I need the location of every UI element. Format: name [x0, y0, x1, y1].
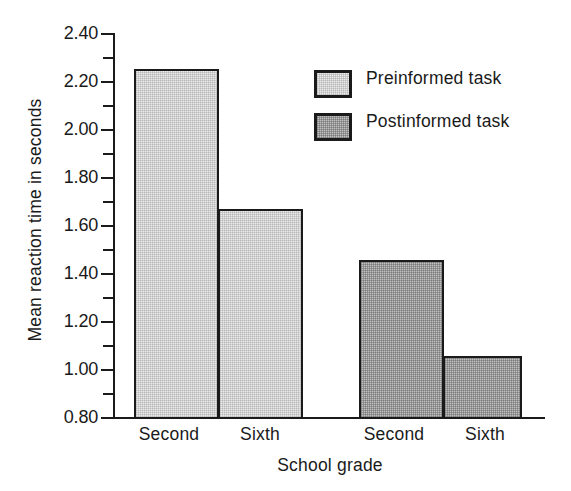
y-tick-label-1-20: 1.20 — [22, 311, 98, 332]
y-tick-label-group: 2.40 2.20 2.00 1.80 1.60 1.40 1.20 1.00 … — [16, 0, 98, 491]
bar-chart-figure: Mean reaction time in seconds 2.40 2.20 … — [0, 0, 571, 491]
y-tick-label-1-00: 1.00 — [22, 359, 98, 380]
x-tick-label-second-post: Second — [346, 424, 442, 445]
y-axis-line — [113, 33, 115, 419]
y-tick-label-1-60: 1.60 — [22, 215, 98, 236]
y-tick-major-2-20 — [101, 81, 113, 83]
y-tick-major-1-40 — [101, 273, 113, 275]
legend-label-postinformed: Postinformed task — [366, 111, 509, 132]
x-tick-label-sixth-pre: Sixth — [219, 424, 301, 445]
x-tick-label-sixth-post: Sixth — [444, 424, 526, 445]
x-axis-line — [113, 417, 545, 419]
y-tick-label-2-20: 2.20 — [22, 71, 98, 92]
legend-swatch-preinformed — [314, 70, 352, 98]
y-tick-minor-1-10 — [103, 345, 113, 347]
y-tick-major-2-00 — [101, 129, 113, 131]
bar-postinformed-second — [359, 260, 444, 419]
y-tick-minor-2-30 — [103, 57, 113, 59]
y-tick-major-0-80 — [101, 417, 113, 419]
y-tick-major-1-60 — [101, 225, 113, 227]
y-tick-label-2-00: 2.00 — [22, 119, 98, 140]
y-tick-minor-1-30 — [103, 297, 113, 299]
y-tick-label-2-40: 2.40 — [22, 23, 98, 44]
bar-postinformed-sixth — [443, 356, 522, 419]
bar-preinformed-sixth — [218, 209, 303, 419]
y-tick-major-1-20 — [101, 321, 113, 323]
y-tick-minor-1-90 — [103, 153, 113, 155]
x-tick-label-second-pre: Second — [121, 424, 217, 445]
legend-label-preinformed: Preinformed task — [366, 68, 501, 89]
x-axis-label: School grade — [135, 455, 525, 476]
y-tick-label-1-40: 1.40 — [22, 263, 98, 284]
y-tick-major-2-40 — [101, 33, 113, 35]
y-tick-major-1-00 — [101, 369, 113, 371]
y-tick-minor-1-70 — [103, 201, 113, 203]
y-tick-minor-0-90 — [103, 393, 113, 395]
bar-preinformed-second — [134, 69, 219, 419]
y-tick-minor-2-10 — [103, 105, 113, 107]
y-tick-label-0-80: 0.80 — [22, 407, 98, 428]
y-tick-label-1-80: 1.80 — [22, 167, 98, 188]
y-tick-minor-1-50 — [103, 249, 113, 251]
legend-swatch-postinformed — [314, 113, 352, 141]
y-tick-major-1-80 — [101, 177, 113, 179]
